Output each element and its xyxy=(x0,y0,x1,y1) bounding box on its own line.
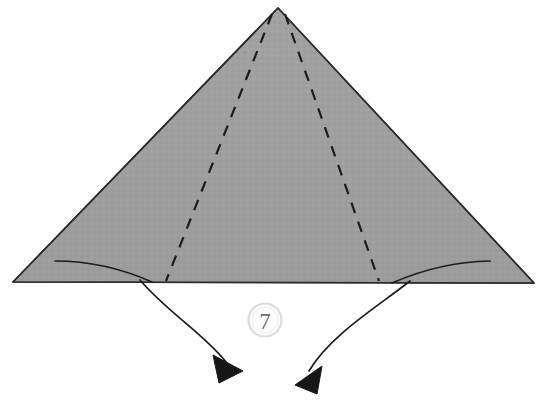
step-number-badge: 7 xyxy=(249,304,282,337)
origami-diagram-svg: 7 xyxy=(0,0,542,412)
origami-diagram-canvas: 7 xyxy=(0,0,542,412)
step-number-label: 7 xyxy=(259,309,271,334)
